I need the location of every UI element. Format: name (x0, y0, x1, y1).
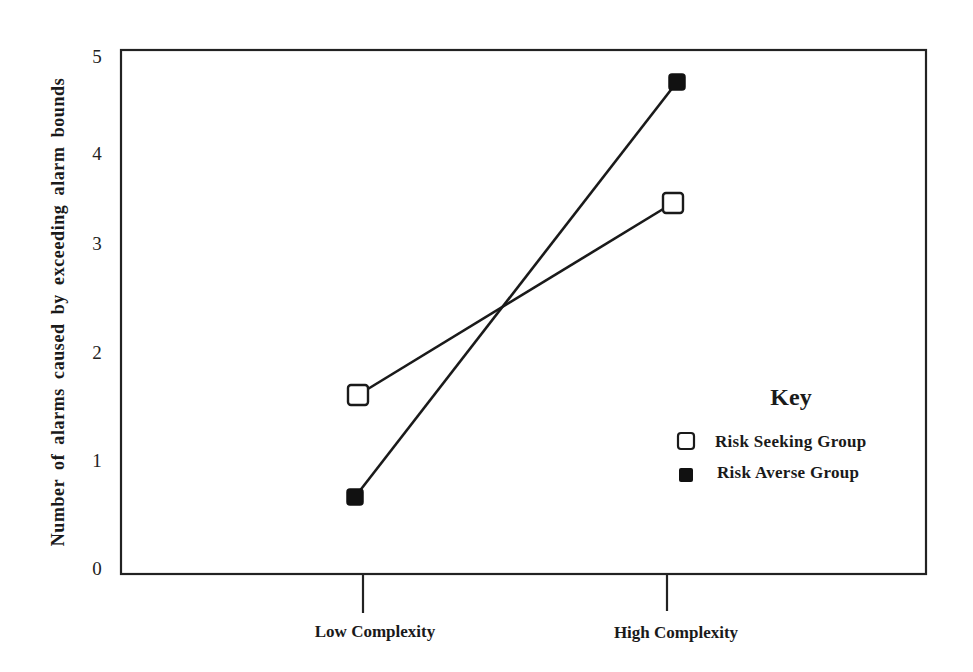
y-axis-ticks: 0 1 2 3 4 5 (92, 46, 102, 579)
y-tick-1: 1 (92, 450, 102, 471)
x-category-high-complexity: High Complexity (614, 623, 739, 642)
plot-frame (121, 50, 926, 574)
legend-label-risk-seeking: Risk Seeking Group (715, 432, 867, 451)
y-tick-4: 4 (92, 143, 102, 164)
legend-label-risk-averse: Risk Averse Group (717, 463, 859, 482)
legend-filled-square-icon (679, 468, 693, 482)
line-chart: 0 1 2 3 4 5 Number of alarms caused by e… (0, 0, 973, 672)
y-axis-label: Number of alarms caused by exceeding ala… (48, 78, 68, 547)
risk-averse-marker-high (669, 74, 685, 90)
y-tick-0: 0 (92, 558, 102, 579)
y-tick-3: 3 (92, 233, 102, 254)
x-category-low-complexity: Low Complexity (315, 622, 436, 641)
y-tick-2: 2 (92, 342, 102, 363)
risk-seeking-marker-high (663, 193, 683, 213)
risk-averse-line (355, 82, 677, 497)
risk-seeking-marker-low (348, 385, 368, 405)
risk-averse-marker-low (347, 489, 363, 505)
legend-open-square-icon (678, 433, 694, 449)
x-axis-ticks (363, 574, 667, 613)
legend-title: Key (770, 384, 811, 410)
legend: Key Risk Seeking Group Risk Averse Group (678, 384, 867, 482)
y-tick-5: 5 (92, 46, 102, 67)
risk-seeking-line (358, 203, 673, 395)
